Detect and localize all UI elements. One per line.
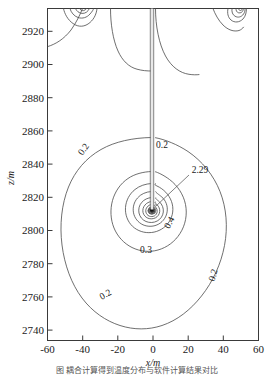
x-tick-label: 60 xyxy=(253,343,265,355)
contour-label-0p2-right: 0.2 xyxy=(207,268,220,283)
contour-arc-upper-left-center xyxy=(111,9,152,71)
y-tick-labels: 2920 2900 2880 2860 2840 2820 2800 2780 … xyxy=(22,25,45,336)
contour-lobe-upper-right xyxy=(213,9,246,31)
contour-labels: 0.2 0.2 2.29 0.4 0.3 0.2 0.2 xyxy=(76,140,220,302)
y-tick-label: 2920 xyxy=(22,25,45,37)
x-tick-label: 20 xyxy=(183,343,195,355)
contour-label-0p4: 0.4 xyxy=(162,215,177,230)
wellbore xyxy=(150,9,153,210)
y-tick-label: 2780 xyxy=(22,258,45,270)
x-tick-labels: -60 -40 -20 0 20 40 60 xyxy=(40,343,264,355)
y-axis-ticks xyxy=(48,31,53,330)
contour-label-0p2-upper-center: 0.2 xyxy=(156,140,168,150)
contour-arc-upper-right-center xyxy=(156,9,200,75)
contour-label-2p29-peak: 2.29 xyxy=(192,165,209,175)
x-tick-label: -40 xyxy=(75,343,90,355)
contour-lines xyxy=(48,9,246,329)
contour-label-0p2-lower-left: 0.2 xyxy=(98,287,114,302)
y-tick-label: 2760 xyxy=(22,291,45,303)
y-tick-label: 2860 xyxy=(22,125,45,137)
figure-caption: 图 耦合计算得到温度分布与软件计算结果对比 xyxy=(0,366,274,375)
y-tick-label: 2820 xyxy=(22,191,45,203)
y-tick-label: 2880 xyxy=(22,92,45,104)
y-tick-label: 2800 xyxy=(22,224,45,236)
contour-label-0p3: 0.3 xyxy=(140,245,152,255)
contour-label-0p2-upper-left: 0.2 xyxy=(76,141,91,157)
x-tick-label: -20 xyxy=(110,343,125,355)
y-tick-label: 2900 xyxy=(22,58,45,70)
y-tick-label: 2740 xyxy=(22,324,45,336)
y-tick-label: 2840 xyxy=(22,158,45,170)
annotation-leader-line xyxy=(156,175,190,207)
x-tick-label: 0 xyxy=(150,343,156,355)
contour-lobe-upper-left xyxy=(48,9,97,47)
contour-plot: 2920 2900 2880 2860 2840 2820 2800 2780 … xyxy=(0,0,274,379)
x-axis-ticks xyxy=(48,336,259,341)
x-tick-label: -60 xyxy=(40,343,55,355)
figure-container: 2920 2900 2880 2860 2840 2820 2800 2780 … xyxy=(0,0,274,379)
x-tick-label: 40 xyxy=(218,343,230,355)
y-axis-label: z/m xyxy=(5,171,16,186)
